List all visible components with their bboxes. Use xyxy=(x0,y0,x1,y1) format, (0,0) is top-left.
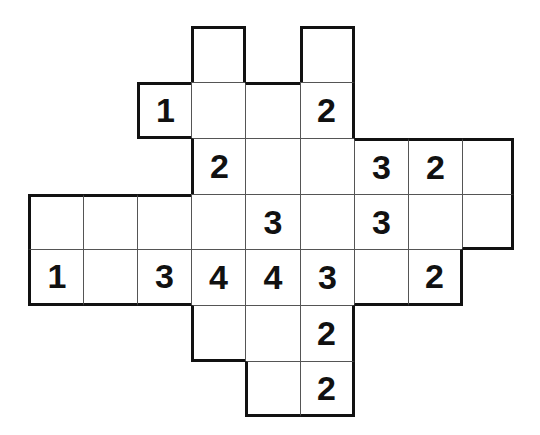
puzzle-board: 122323313443222 xyxy=(0,0,540,435)
grid-cell[interactable] xyxy=(191,305,246,362)
grid-cell[interactable] xyxy=(137,194,192,250)
grid-cell[interactable] xyxy=(83,249,138,306)
grid-cell[interactable]: 1 xyxy=(137,82,192,139)
grid-cell[interactable] xyxy=(300,26,355,83)
grid-cell[interactable] xyxy=(245,138,301,195)
grid-cell[interactable] xyxy=(300,194,355,250)
grid-cell[interactable]: 2 xyxy=(300,82,355,139)
grid-cell[interactable]: 3 xyxy=(354,194,409,250)
grid-cell[interactable] xyxy=(462,194,514,250)
grid-cell[interactable] xyxy=(191,26,246,83)
grid-cell[interactable] xyxy=(462,138,514,195)
grid-cell[interactable] xyxy=(245,305,301,362)
grid-cell[interactable]: 2 xyxy=(408,249,463,306)
grid-cell[interactable]: 2 xyxy=(408,138,463,195)
grid-cell[interactable] xyxy=(28,194,84,250)
grid-cell[interactable]: 4 xyxy=(245,249,301,306)
grid-cell[interactable]: 4 xyxy=(191,249,246,306)
grid-cell[interactable] xyxy=(245,82,301,139)
grid-cell[interactable] xyxy=(245,361,301,417)
grid-cell[interactable]: 2 xyxy=(191,138,246,195)
grid-cell[interactable]: 3 xyxy=(137,249,192,306)
grid-cell[interactable]: 2 xyxy=(300,361,355,417)
grid-cell[interactable]: 3 xyxy=(245,194,301,250)
grid-cell[interactable]: 2 xyxy=(300,305,355,362)
grid-cell[interactable]: 3 xyxy=(354,138,409,195)
grid-cell[interactable]: 1 xyxy=(28,249,84,306)
grid-cell[interactable] xyxy=(300,138,355,195)
grid-cell[interactable] xyxy=(408,194,463,250)
grid-cell[interactable] xyxy=(191,82,246,139)
grid-cell[interactable]: 3 xyxy=(300,249,355,306)
grid-cell[interactable] xyxy=(83,194,138,250)
grid-cell[interactable] xyxy=(354,249,409,306)
grid-cell[interactable] xyxy=(191,194,246,250)
